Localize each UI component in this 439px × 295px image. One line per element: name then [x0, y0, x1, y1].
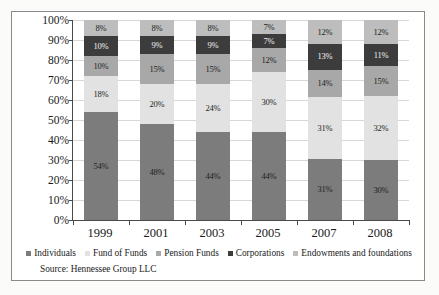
bar-segment-label: 15% [206, 65, 221, 74]
x-axis-ticks [73, 220, 409, 225]
bar-segment[interactable]: 15% [196, 54, 230, 84]
bar-segment[interactable]: 54% [84, 112, 118, 220]
bar-segment[interactable]: 44% [252, 132, 286, 220]
bar-segment[interactable]: 12% [364, 20, 398, 44]
bar-segment-label: 20% [150, 100, 165, 109]
bar-segment[interactable]: 12% [252, 48, 286, 72]
bar-segment-label: 32% [374, 124, 389, 133]
legend-item[interactable]: Corporations [228, 248, 285, 258]
y-tick-label: 70% [48, 75, 69, 87]
legend-swatch-icon [85, 251, 90, 256]
bar-segment-label: 30% [262, 98, 277, 107]
bar-segment-label: 12% [262, 56, 277, 65]
y-tick-label: 10% [48, 195, 69, 207]
bar-segment-label: 7% [264, 37, 275, 46]
x-axis-label: 2008 [352, 226, 408, 241]
bar-segment-label: 48% [150, 168, 165, 177]
legend-item[interactable]: Endowments and foundations [293, 248, 412, 258]
legend-item[interactable]: Pension Funds [156, 248, 219, 258]
bar-segment[interactable]: 15% [364, 66, 398, 96]
bar-segment[interactable]: 14% [308, 70, 342, 98]
bar-segment[interactable]: 15% [140, 54, 174, 84]
legend-swatch-icon [156, 251, 161, 256]
x-axis-labels: 199920012003200520072008 [72, 226, 408, 241]
bar-segment-label: 13% [318, 52, 333, 61]
bar-segment[interactable]: 12% [308, 20, 342, 44]
legend-swatch-icon [228, 251, 233, 256]
bar-segment[interactable]: 31% [308, 159, 342, 220]
bar-segment[interactable]: 8% [140, 20, 174, 36]
bar-column[interactable]: 8%9%15%20%48% [140, 20, 174, 220]
bar-segment-label: 10% [94, 42, 109, 51]
legend-item[interactable]: Individuals [26, 248, 76, 258]
bar-segment-label: 31% [318, 185, 333, 194]
bar-segment[interactable]: 31% [308, 97, 342, 158]
bar-segment[interactable]: 20% [140, 84, 174, 124]
y-tick-label: 0% [54, 215, 69, 227]
bar-segment-label: 12% [374, 28, 389, 37]
chart-page: 100%90%80%70%60%50%40%30%20%10%0% 8%10%1… [0, 0, 439, 295]
bar-segment[interactable]: 24% [196, 84, 230, 132]
legend-label: Endowments and foundations [301, 248, 412, 258]
source-note: Source: Hennessee Group LLC [40, 264, 156, 274]
bar-segment[interactable]: 13% [308, 44, 342, 70]
x-axis-label: 2001 [128, 226, 184, 241]
y-tick-label: 20% [48, 175, 69, 187]
legend-label: Corporations [236, 248, 285, 258]
y-axis-labels: 100%90%80%70%60%50%40%30%20%10%0% [22, 20, 69, 220]
y-tick-label: 30% [48, 155, 69, 167]
y-tick-label: 60% [48, 95, 69, 107]
bar-segment[interactable]: 11% [364, 44, 398, 66]
chart-frame: 100%90%80%70%60%50%40%30%20%10%0% 8%10%1… [11, 11, 425, 281]
bar-segment[interactable]: 10% [84, 36, 118, 56]
plot-wrapper: 100%90%80%70%60%50%40%30%20%10%0% 8%10%1… [12, 20, 426, 235]
bar-segment-label: 31% [318, 124, 333, 133]
legend-label: Pension Funds [164, 248, 219, 258]
bar-column[interactable]: 7%7%12%30%44% [252, 20, 286, 220]
bar-segment[interactable]: 18% [84, 76, 118, 112]
x-axis-label: 1999 [72, 226, 128, 241]
bar-segment-label: 18% [94, 90, 109, 99]
x-axis-tick [185, 220, 186, 225]
y-tick-label: 40% [48, 135, 69, 147]
x-axis-tick [241, 220, 242, 225]
x-axis-label: 2003 [184, 226, 240, 241]
legend-label: Fund of Funds [93, 248, 147, 258]
bar-column[interactable]: 12%11%15%32%30% [364, 20, 398, 220]
y-tick-label: 80% [48, 55, 69, 67]
legend-item[interactable]: Fund of Funds [85, 248, 147, 258]
x-axis-tick [129, 220, 130, 225]
bar-segment-label: 15% [150, 65, 165, 74]
legend-swatch-icon [293, 251, 298, 256]
bar-segment-label: 9% [208, 41, 219, 50]
bar-segment-label: 11% [374, 51, 389, 60]
bar-segment[interactable]: 30% [364, 160, 398, 220]
bar-segment[interactable]: 9% [140, 36, 174, 54]
bar-segment[interactable]: 7% [252, 20, 286, 34]
bar-segment[interactable]: 30% [252, 72, 286, 132]
bar-column[interactable]: 8%9%15%24%44% [196, 20, 230, 220]
bar-segment[interactable]: 8% [196, 20, 230, 36]
bar-column[interactable]: 12%13%14%31%31% [308, 20, 342, 220]
bar-segment-label: 8% [152, 24, 163, 33]
bar-column[interactable]: 8%10%10%18%54% [84, 20, 118, 220]
x-axis-tick [297, 220, 298, 225]
bar-segment[interactable]: 8% [84, 20, 118, 36]
bar-segment-label: 10% [94, 62, 109, 71]
legend-label: Individuals [34, 248, 76, 258]
bar-segment-label: 44% [262, 172, 277, 181]
bar-segment[interactable]: 32% [364, 96, 398, 160]
bar-segment-label: 12% [318, 28, 333, 37]
bar-segment[interactable]: 48% [140, 124, 174, 220]
y-tick-label: 50% [48, 115, 69, 127]
bar-segment[interactable]: 10% [84, 56, 118, 76]
bar-segment[interactable]: 44% [196, 132, 230, 220]
bar-segment[interactable]: 9% [196, 36, 230, 54]
legend-swatch-icon [26, 251, 31, 256]
x-axis-tick [409, 220, 410, 225]
bar-segment-label: 7% [264, 23, 275, 32]
bar-segment-label: 54% [94, 162, 109, 171]
x-axis-label: 2007 [296, 226, 352, 241]
bar-segment-label: 8% [208, 24, 219, 33]
bar-segment[interactable]: 7% [252, 34, 286, 48]
